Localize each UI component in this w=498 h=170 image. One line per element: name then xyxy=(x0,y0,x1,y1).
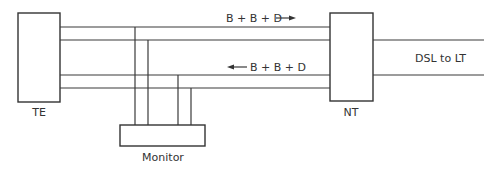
arrow-left-icon xyxy=(227,65,247,70)
te-label: TE xyxy=(31,106,46,119)
monitor-box xyxy=(120,125,205,146)
upstream-channel-label: B + B + D xyxy=(226,12,282,25)
dsl-label: DSL to LT xyxy=(415,52,466,65)
downstream-channel-label: B + B + D xyxy=(250,61,306,74)
nt-label: NT xyxy=(344,106,359,119)
nt-box xyxy=(330,13,373,101)
isdn-monitor-diagram: TE NT DSL to LT Monitor B + B + D B + B … xyxy=(0,0,498,170)
monitor-label: Monitor xyxy=(142,151,184,164)
te-box xyxy=(18,13,60,102)
